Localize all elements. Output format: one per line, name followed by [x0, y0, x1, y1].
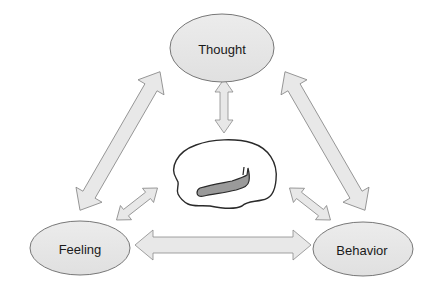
- node-behavior-label: Behavior: [336, 243, 387, 258]
- node-thought-label: Thought: [198, 42, 246, 57]
- arrow-feeling-brain: [111, 181, 163, 227]
- brain-icon: [174, 140, 276, 209]
- arrow-thought-feeling: [67, 64, 173, 218]
- arrow-thought-brain: [215, 79, 233, 133]
- arrow-behavior-brain: [284, 181, 336, 227]
- node-feeling-label: Feeling: [59, 242, 102, 257]
- arrow-thought-behavior: [272, 64, 378, 218]
- arrow-feeling-behavior: [135, 230, 311, 260]
